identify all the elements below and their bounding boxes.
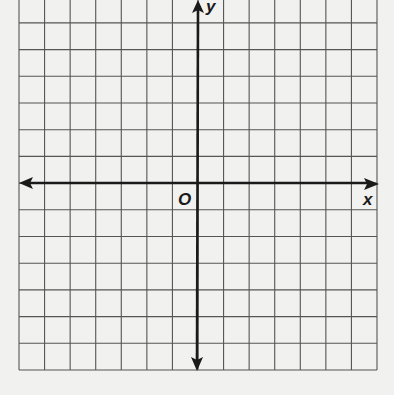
- coordinate-grid: [0, 0, 394, 395]
- y-axis-label: y: [206, 0, 215, 17]
- origin-label: O: [178, 190, 191, 210]
- y-axis: [191, 0, 204, 371]
- x-axis-label: x: [363, 190, 372, 210]
- x-axis: [19, 177, 379, 190]
